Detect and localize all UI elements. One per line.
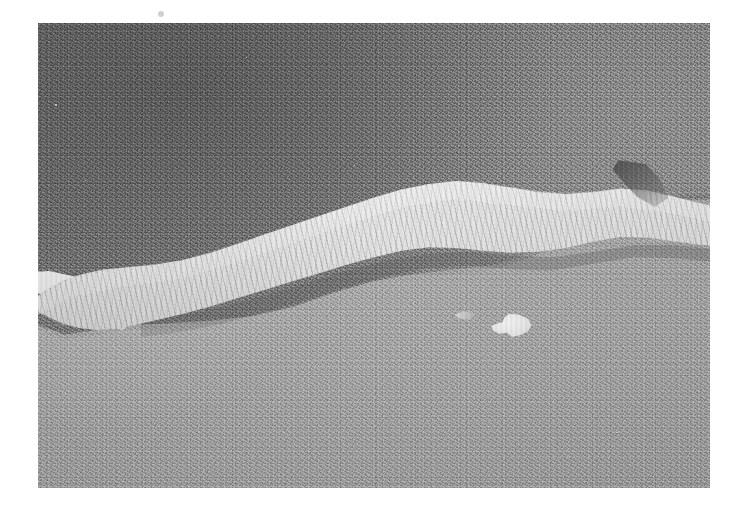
screenshot-root: Scanning electron micrograph	[0, 0, 746, 514]
faint-margin-mark	[158, 11, 164, 17]
micrograph-modality-label: Scanning electron micrograph	[0, 16, 1, 17]
speck-lower-left	[65, 393, 66, 395]
fibrous-band-group	[38, 23, 710, 488]
sem-micrograph	[38, 23, 710, 488]
